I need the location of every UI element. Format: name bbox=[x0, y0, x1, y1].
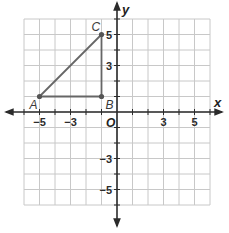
y-tick-label: 3 bbox=[106, 60, 112, 72]
x-tick-label: 3 bbox=[160, 116, 166, 128]
coordinate-plane: −5−33553−3−5 ABC x y O bbox=[0, 0, 229, 233]
x-tick-label: 5 bbox=[191, 116, 197, 128]
x-tick-label: −3 bbox=[64, 116, 77, 128]
y-axis-label: y bbox=[121, 2, 130, 17]
y-tick-label: 5 bbox=[106, 29, 112, 41]
x-tick-label: −5 bbox=[33, 116, 46, 128]
point-label-c: C bbox=[92, 20, 101, 34]
origin-label: O bbox=[106, 116, 116, 130]
y-tick-label: −5 bbox=[99, 184, 112, 196]
point-a bbox=[37, 94, 42, 99]
point-label-b: B bbox=[106, 98, 114, 112]
point-b bbox=[99, 94, 104, 99]
x-axis-label: x bbox=[213, 95, 222, 110]
axes bbox=[6, 3, 222, 226]
y-tick-label: −3 bbox=[99, 153, 112, 165]
point-label-a: A bbox=[29, 98, 38, 112]
